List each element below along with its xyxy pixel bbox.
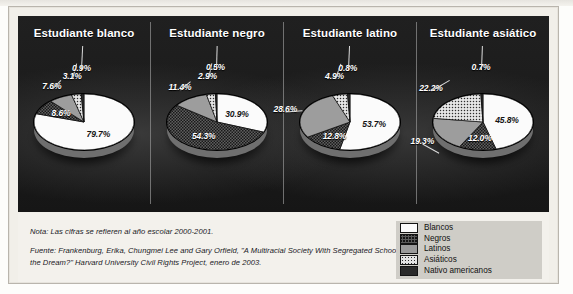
legend-label: Blancos bbox=[424, 224, 453, 232]
legend-swatch-negros bbox=[400, 234, 418, 244]
legend: BlancosNegrosLatinosAsiáticosNativo amer… bbox=[396, 221, 542, 279]
pie-panel-estudiante-asiatico: Estudiante asiático 45.8%12.0%19.3%22.2%… bbox=[417, 16, 549, 212]
pie-face bbox=[34, 94, 134, 150]
legend-item-blancos: Blancos bbox=[400, 223, 538, 234]
pie-chart: 53.7%12.8%28.6%4.9%0.8% bbox=[284, 68, 416, 188]
slice-label: 4.9% bbox=[325, 71, 344, 81]
note-text: Nota: Las cifras se refieren al año esco… bbox=[30, 227, 213, 236]
pie-chart: 30.9%54.3%11.4%2.9%0.5% bbox=[151, 68, 283, 188]
legend-label: Nativo americanos bbox=[424, 267, 492, 275]
slice-label: 45.8% bbox=[495, 115, 519, 125]
pie-chart: 45.8%12.0%19.3%22.2%0.7% bbox=[417, 68, 549, 188]
legend-label: Latinos bbox=[424, 245, 450, 253]
panel-title: Estudiante asiático bbox=[417, 27, 549, 39]
legend-swatch-nativos bbox=[400, 266, 418, 276]
pie-charts-band: Estudiante blanco 79.7%8.6%7.6%3.1%0.9% … bbox=[18, 16, 549, 212]
source-text-line2: the Dream?" Harvard University Civil Rig… bbox=[30, 258, 261, 267]
legend-swatch-latinos bbox=[400, 244, 418, 254]
legend-item-nativos: Nativo americanos bbox=[400, 265, 538, 276]
slice-label: 8.6% bbox=[52, 108, 71, 118]
label-leader-line bbox=[216, 47, 218, 71]
pie-panel-estudiante-blanco: Estudiante blanco 79.7%8.6%7.6%3.1%0.9% bbox=[18, 16, 150, 212]
slice-label: 79.7% bbox=[87, 129, 111, 139]
legend-item-latinos: Latinos bbox=[400, 244, 538, 255]
pie-chart: 79.7%8.6%7.6%3.1%0.9% bbox=[18, 68, 150, 188]
pie-panel-estudiante-negro: Estudiante negro 30.9%54.3%11.4%2.9%0.5% bbox=[151, 16, 283, 212]
legend-item-negros: Negros bbox=[400, 234, 538, 245]
figure-frame: Estudiante blanco 79.7%8.6%7.6%3.1%0.9% … bbox=[8, 6, 559, 284]
legend-label: Asiáticos bbox=[424, 256, 457, 264]
source-text-line1: Fuente: Frankenburg, Erika, Chungmei Lee… bbox=[30, 246, 456, 255]
legend-item-asiaticos: Asiáticos bbox=[400, 255, 538, 266]
notes-area: Nota: Las cifras se refieren al año esco… bbox=[18, 213, 549, 282]
panel-title: Estudiante negro bbox=[151, 27, 283, 39]
figure-page: Estudiante blanco 79.7%8.6%7.6%3.1%0.9% … bbox=[0, 0, 573, 294]
slice-label: 12.0% bbox=[468, 133, 492, 143]
legend-swatch-blancos bbox=[400, 223, 418, 233]
slice-label: 54.3% bbox=[192, 131, 216, 141]
pie-panel-estudiante-latino: Estudiante latino 53.7%12.8%28.6%4.9%0.8… bbox=[284, 16, 416, 212]
legend-label: Negros bbox=[424, 235, 450, 243]
slice-label: 12.8% bbox=[323, 131, 347, 141]
legend-swatch-asiaticos bbox=[400, 255, 418, 265]
pie-face bbox=[167, 94, 267, 150]
slice-label: 53.7% bbox=[362, 119, 386, 129]
panel-title: Estudiante blanco bbox=[18, 27, 150, 39]
pie-slice-asiaticos bbox=[433, 94, 483, 122]
slice-label: 30.9% bbox=[225, 109, 249, 119]
panel-title: Estudiante latino bbox=[284, 27, 416, 39]
